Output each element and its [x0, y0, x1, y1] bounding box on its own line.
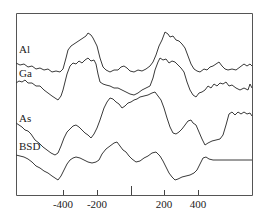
eds-line-profile-chart	[0, 0, 262, 217]
label-ga: Ga	[19, 68, 32, 79]
label-as: As	[19, 113, 31, 124]
tick-label-400: 400	[190, 199, 207, 210]
label-bsd: BSD	[19, 141, 40, 152]
tick-label-neg200: -200	[87, 199, 107, 210]
series-al-line	[16, 32, 252, 72]
series-bsd-line	[16, 142, 252, 180]
label-al: Al	[19, 44, 30, 55]
series-ga-line	[16, 58, 252, 100]
series-as-line	[16, 92, 252, 155]
plot-frame	[17, 14, 253, 196]
tick-label-200: 200	[156, 199, 173, 210]
tick-label-neg400: -400	[53, 199, 73, 210]
x-ticks	[64, 186, 199, 195]
